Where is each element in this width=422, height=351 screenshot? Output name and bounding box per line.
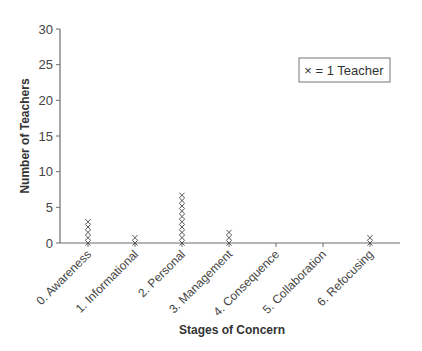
x-marker-icon bbox=[179, 203, 184, 208]
y-tick-label: 10 bbox=[39, 164, 53, 179]
x-marker-icon bbox=[85, 219, 90, 224]
legend-text: × = 1 Teacher bbox=[304, 63, 384, 78]
y-tick-label: 5 bbox=[46, 200, 53, 215]
x-marker-icon bbox=[85, 235, 90, 240]
y-tick-label: 30 bbox=[39, 22, 53, 37]
x-axis-title: Stages of Concern bbox=[179, 323, 285, 337]
x-marker-icon bbox=[179, 235, 184, 240]
x-marker-icon bbox=[132, 235, 137, 240]
y-tick-label: 25 bbox=[39, 57, 53, 72]
x-marker-icon bbox=[179, 230, 184, 235]
y-tick-label: 0 bbox=[46, 236, 53, 251]
x-marker-icon bbox=[179, 214, 184, 219]
dot-plot-chart: 051015202530 0. Awareness1. Informationa… bbox=[0, 0, 422, 351]
x-marker-icon bbox=[179, 193, 184, 198]
y-axis: 051015202530 bbox=[39, 22, 60, 251]
x-marker-icon bbox=[85, 230, 90, 235]
x-axis: 0. Awareness1. Informational2. Personal3… bbox=[33, 243, 400, 319]
data-markers bbox=[85, 193, 372, 246]
x-marker-icon bbox=[179, 198, 184, 203]
x-marker-icon bbox=[226, 230, 231, 235]
x-marker-icon bbox=[179, 219, 184, 224]
legend: × = 1 Teacher bbox=[299, 58, 390, 82]
x-marker-icon bbox=[367, 235, 372, 240]
y-axis-title: Number of Teachers bbox=[18, 78, 32, 193]
y-tick-label: 15 bbox=[39, 129, 53, 144]
x-marker-icon bbox=[85, 225, 90, 230]
x-marker-icon bbox=[179, 225, 184, 230]
x-marker-icon bbox=[226, 235, 231, 240]
y-tick-label: 20 bbox=[39, 93, 53, 108]
x-marker-icon bbox=[179, 209, 184, 214]
